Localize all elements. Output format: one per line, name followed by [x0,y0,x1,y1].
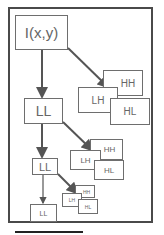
level1-hl-label: HL [124,106,137,117]
level3-hh-label: HH [83,189,90,195]
level2-ll-node: LL [32,158,58,175]
level3-lh-label: LH [69,197,75,203]
level1-lh-label: LH [92,95,105,106]
level1-ll-label: LL [36,103,52,119]
level2-hh-label: HH [104,145,116,154]
level3-ll-label: LL [40,210,48,217]
level1-ll-node: LL [24,98,63,124]
level3-hl-node: HL [78,199,98,214]
level2-hl-label: HL [104,166,114,175]
root-image-node: I(x,y) [15,15,68,50]
level2-ll-label: LL [39,161,51,173]
level3-ll-node: LL [30,204,57,222]
level2-lh-label: LH [80,156,90,165]
root-label: I(x,y) [25,24,58,41]
level1-hh-label: HH [121,78,135,89]
level1-hl-node: HL [110,98,150,125]
level3-hl-label: HL [85,204,91,210]
level2-hl-node: HL [94,160,124,180]
caption-rule [15,231,83,233]
